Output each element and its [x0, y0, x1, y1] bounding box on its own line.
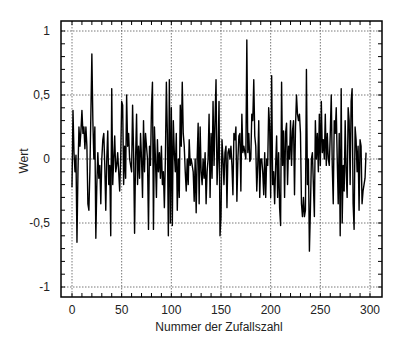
line-chart: 050100150200250300 10,50-0,5-1 Nummer de…	[0, 0, 403, 351]
y-tick-label: 1	[43, 24, 50, 38]
y-tick-label: 0,5	[33, 88, 50, 102]
x-tick-label: 150	[211, 303, 231, 317]
x-tick-label: 200	[261, 303, 281, 317]
x-tick-label: 0	[69, 303, 76, 317]
y-tick-label: -1	[39, 280, 50, 294]
x-tick-label: 300	[360, 303, 380, 317]
x-axis-title: Nummer der Zufallszahl	[155, 320, 282, 334]
y-axis-title: Wert	[17, 148, 31, 174]
y-tick-label: -0,5	[29, 216, 50, 230]
y-axis-tick-labels: 10,50-0,5-1	[29, 24, 50, 294]
x-tick-label: 50	[115, 303, 129, 317]
y-tick-label: 0	[43, 152, 50, 166]
x-tick-label: 250	[310, 303, 330, 317]
data-line	[72, 40, 366, 251]
x-axis-tick-labels: 050100150200250300	[69, 303, 381, 317]
x-tick-label: 100	[161, 303, 181, 317]
